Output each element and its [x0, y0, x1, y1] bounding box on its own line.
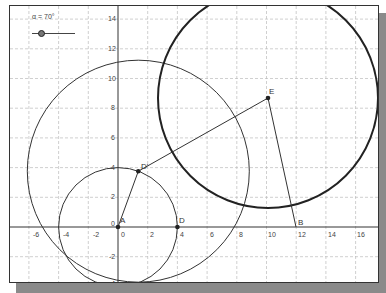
label-a: A — [120, 216, 126, 225]
grid — [10, 6, 379, 283]
slider-alpha-label: α = 70° — [32, 13, 55, 20]
point-d-prime[interactable] — [136, 169, 141, 174]
svg-text:14: 14 — [328, 231, 336, 238]
svg-text:12: 12 — [108, 45, 116, 52]
svg-text:-4: -4 — [63, 231, 69, 238]
label-e: E — [269, 87, 274, 96]
svg-text:0: 0 — [111, 220, 115, 227]
point-a[interactable] — [116, 225, 121, 230]
circle-center-e[interactable] — [158, 6, 378, 208]
slider-alpha-knob[interactable] — [38, 30, 45, 37]
point-e[interactable] — [266, 96, 271, 101]
svg-text:4: 4 — [180, 231, 184, 238]
geometry-canvas[interactable]: -6 -4 -2 0 2 4 6 8 10 12 14 16 14 12 10 … — [10, 6, 379, 283]
svg-text:6: 6 — [111, 134, 115, 141]
window-shadow-bottom — [16, 283, 386, 293]
svg-text:-2: -2 — [93, 231, 99, 238]
svg-text:8: 8 — [111, 104, 115, 111]
svg-text:-6: -6 — [33, 231, 39, 238]
svg-text:2: 2 — [111, 193, 115, 200]
point-d[interactable] — [175, 225, 180, 230]
svg-text:16: 16 — [357, 231, 365, 238]
graphics-view[interactable]: -6 -4 -2 0 2 4 6 8 10 12 14 16 14 12 10 … — [9, 5, 379, 283]
svg-text:8: 8 — [239, 231, 243, 238]
y-tick-labels: 14 12 10 8 6 4 2 0 -2 -4 — [108, 15, 116, 283]
window-shadow-right — [379, 13, 386, 293]
label-d: D — [179, 216, 185, 225]
svg-text:14: 14 — [108, 15, 116, 22]
axes — [10, 6, 379, 283]
svg-text:-4: -4 — [109, 280, 115, 283]
svg-text:10: 10 — [268, 231, 276, 238]
svg-text:-2: -2 — [109, 253, 115, 260]
svg-text:10: 10 — [108, 75, 116, 82]
svg-text:6: 6 — [210, 231, 214, 238]
svg-text:12: 12 — [298, 231, 306, 238]
svg-text:0: 0 — [121, 231, 125, 238]
svg-text:2: 2 — [150, 231, 154, 238]
label-b: B — [298, 218, 303, 227]
label-d-prime: D' — [141, 162, 149, 171]
x-tick-labels: -6 -4 -2 0 2 4 6 8 10 12 14 16 — [33, 231, 365, 238]
